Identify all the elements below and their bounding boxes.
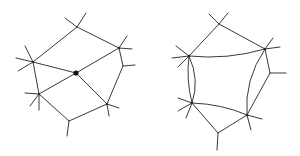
spoke — [77, 13, 86, 27]
edge — [192, 103, 218, 133]
vertex — [264, 48, 267, 51]
right-graph — [172, 13, 286, 150]
spoke — [176, 46, 189, 56]
edge — [219, 24, 265, 49]
spoke — [65, 18, 77, 27]
spoke — [25, 93, 39, 94]
edge — [76, 73, 107, 104]
spoke — [16, 58, 33, 62]
vertex — [188, 55, 191, 58]
graph-diagram — [0, 0, 300, 156]
curved-edge — [189, 49, 265, 57]
spoke — [119, 36, 127, 48]
edge — [189, 24, 219, 56]
edge — [218, 115, 247, 133]
vertex — [38, 93, 40, 95]
spoke — [209, 14, 219, 24]
edge — [77, 27, 119, 48]
spoke — [178, 56, 189, 67]
spoke — [123, 65, 135, 66]
spoke — [217, 133, 218, 150]
spoke — [67, 121, 69, 136]
edge — [69, 104, 107, 121]
vertex — [32, 61, 34, 63]
edge — [265, 49, 270, 73]
edge — [119, 48, 123, 66]
spoke — [172, 56, 189, 58]
edge — [33, 27, 77, 62]
edge — [107, 66, 123, 104]
spoke — [265, 38, 273, 49]
vertex — [106, 103, 108, 105]
edge — [76, 48, 119, 73]
spoke — [219, 13, 228, 24]
edge — [33, 62, 39, 94]
spoke — [119, 48, 132, 49]
vertex — [118, 47, 120, 49]
spoke — [107, 104, 109, 116]
left-graph — [16, 13, 135, 136]
spoke — [247, 115, 251, 130]
spoke — [107, 104, 119, 108]
spoke — [25, 46, 33, 62]
edge — [39, 94, 69, 121]
spoke — [178, 98, 192, 103]
curved-edge — [247, 49, 265, 115]
edge — [33, 62, 76, 73]
center-vertex — [73, 70, 78, 75]
spoke — [30, 94, 39, 106]
vertex — [191, 102, 194, 105]
edge — [39, 73, 76, 94]
vertex — [246, 114, 249, 117]
spoke — [265, 47, 280, 49]
spoke — [18, 62, 33, 71]
spoke — [247, 115, 262, 119]
